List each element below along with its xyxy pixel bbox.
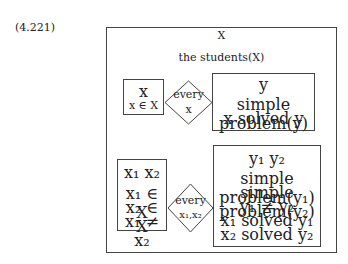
antecedent-2-universe: x₁ x₂	[118, 163, 166, 182]
outer-condition: the students(X)	[107, 51, 336, 64]
consequent-box-2: y₁ y₂ simple problem(y₁) simple problem(…	[213, 145, 321, 247]
outer-universe: X	[107, 29, 336, 42]
consequent-2-condition: x₂ solved y₂	[214, 225, 320, 244]
quantifier-diamond-2	[167, 183, 214, 233]
antecedent-box-2: x₁ x₂ x₁ ∈ X x₂ ∈ X x₁ ≠ x₂	[117, 159, 167, 231]
antecedent-2-condition: x₁ ≠ x₂	[118, 212, 166, 250]
consequent-1-condition: x solved y	[213, 109, 314, 128]
quantifier-2-variable: x₁,x₂	[167, 209, 214, 221]
consequent-box-1: y simple problem(y) x solved y	[212, 73, 315, 131]
equation-number: (4.221)	[15, 21, 55, 34]
quantifier-2-label: every	[167, 195, 214, 207]
antecedent-1-condition: x ∈ X	[124, 99, 163, 112]
consequent-1-universe: y	[213, 75, 314, 94]
quantifier-1-variable: x	[164, 104, 213, 116]
quantifier-1-label: every	[164, 89, 213, 101]
consequent-2-universe: y₁ y₂	[214, 149, 320, 168]
antecedent-box-1: x x ∈ X	[123, 79, 164, 115]
